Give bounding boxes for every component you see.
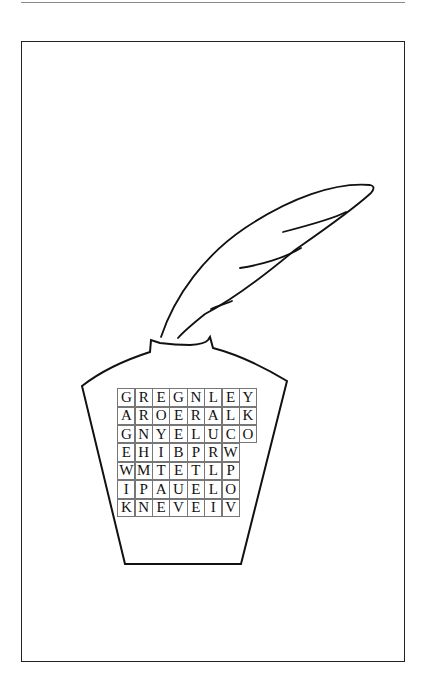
- grid-cell[interactable]: E: [187, 480, 205, 498]
- grid-cell[interactable]: R: [135, 388, 153, 406]
- grid-cell[interactable]: E: [187, 499, 205, 517]
- grid-cell[interactable]: O: [222, 480, 240, 498]
- grid-cell[interactable]: A: [152, 480, 170, 498]
- grid-cell[interactable]: O: [239, 425, 257, 443]
- grid-cell[interactable]: C: [222, 425, 240, 443]
- grid-row-6: I P A U E L O: [118, 481, 257, 499]
- grid-cell[interactable]: T: [152, 462, 170, 480]
- grid-row-1: G R E G N L E Y: [118, 389, 257, 407]
- grid-cell[interactable]: N: [135, 425, 153, 443]
- grid-cell[interactable]: G: [169, 388, 187, 406]
- grid-cell[interactable]: I: [204, 499, 222, 517]
- grid-cell[interactable]: E: [152, 499, 170, 517]
- grid-cell[interactable]: K: [239, 407, 257, 425]
- grid-cell[interactable]: U: [169, 480, 187, 498]
- grid-cell[interactable]: T: [187, 462, 205, 480]
- grid-cell[interactable]: N: [135, 499, 153, 517]
- grid-row-2: A R O E R A L K: [118, 407, 257, 425]
- grid-row-7: K N E V E I V: [118, 499, 257, 517]
- grid-cell[interactable]: H: [135, 443, 153, 461]
- grid-cell[interactable]: I: [152, 443, 170, 461]
- grid-cell[interactable]: O: [152, 407, 170, 425]
- grid-row-3: G N Y E L U C O: [118, 426, 257, 444]
- grid-cell[interactable]: L: [204, 480, 222, 498]
- grid-cell[interactable]: R: [187, 407, 205, 425]
- grid-cell[interactable]: A: [204, 407, 222, 425]
- grid-cell[interactable]: R: [204, 443, 222, 461]
- grid-cell[interactable]: P: [187, 443, 205, 461]
- grid-cell[interactable]: E: [152, 388, 170, 406]
- feather-quill-icon: [161, 185, 374, 338]
- grid-cell[interactable]: V: [169, 499, 187, 517]
- grid-cell[interactable]: I: [117, 480, 135, 498]
- grid-cell[interactable]: U: [204, 425, 222, 443]
- grid-cell[interactable]: Y: [152, 425, 170, 443]
- grid-cell[interactable]: L: [204, 462, 222, 480]
- grid-cell[interactable]: E: [169, 462, 187, 480]
- grid-cell[interactable]: V: [222, 499, 240, 517]
- grid-cell[interactable]: E: [117, 443, 135, 461]
- grid-cell[interactable]: L: [204, 388, 222, 406]
- grid-row-4: E H I B P R W: [118, 444, 257, 462]
- grid-cell[interactable]: P: [135, 480, 153, 498]
- grid-cell[interactable]: P: [222, 462, 240, 480]
- grid-cell[interactable]: G: [117, 388, 135, 406]
- grid-cell[interactable]: E: [169, 425, 187, 443]
- grid-cell[interactable]: R: [135, 407, 153, 425]
- grid-cell[interactable]: L: [222, 407, 240, 425]
- grid-cell[interactable]: L: [187, 425, 205, 443]
- grid-cell[interactable]: M: [135, 462, 153, 480]
- grid-cell[interactable]: W: [222, 443, 240, 461]
- grid-cell[interactable]: E: [169, 407, 187, 425]
- quill-inkpot-illustration: [0, 0, 427, 692]
- grid-cell[interactable]: G: [117, 425, 135, 443]
- grid-cell[interactable]: B: [169, 443, 187, 461]
- grid-cell[interactable]: K: [117, 499, 135, 517]
- grid-cell[interactable]: E: [222, 388, 240, 406]
- grid-row-5: W M T E T L P: [118, 463, 257, 481]
- grid-cell[interactable]: A: [117, 407, 135, 425]
- word-search-grid: G R E G N L E Y A R O E R A L K G N Y E …: [118, 389, 257, 518]
- grid-cell[interactable]: W: [117, 462, 135, 480]
- grid-cell[interactable]: N: [187, 388, 205, 406]
- grid-cell[interactable]: Y: [239, 388, 257, 406]
